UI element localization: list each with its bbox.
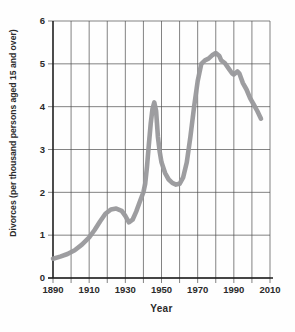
y-tick-label: 0 — [40, 272, 45, 283]
y-tick-label: 1 — [40, 229, 46, 240]
x-tick-label: 2010 — [259, 284, 280, 295]
y-tick-label: 4 — [40, 101, 46, 112]
y-tick-label: 5 — [40, 58, 46, 69]
x-tick-label: 1950 — [151, 284, 172, 295]
divorce-rate-line — [53, 53, 261, 259]
x-tick-label: 1970 — [187, 284, 208, 295]
x-tick-label: 1910 — [79, 284, 100, 295]
y-tick-label: 2 — [40, 187, 45, 198]
y-axis-title: Divorces (per thousand persons aged 15 a… — [8, 29, 18, 236]
x-tick-label: 1990 — [223, 284, 244, 295]
x-axis-title: Year — [53, 303, 270, 314]
chart-figure: 18901910193019501970199020100123456 Divo… — [0, 0, 295, 332]
chart-canvas: 18901910193019501970199020100123456 — [0, 0, 295, 332]
x-tick-label: 1930 — [115, 284, 136, 295]
x-tick-label: 1890 — [42, 284, 63, 295]
y-tick-label: 3 — [40, 144, 45, 155]
y-tick-label: 6 — [40, 15, 45, 26]
